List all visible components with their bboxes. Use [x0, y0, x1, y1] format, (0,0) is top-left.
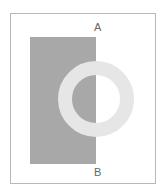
- label-a: A: [94, 22, 101, 33]
- label-b: B: [94, 167, 101, 178]
- koffka-ring-figure: [0, 0, 166, 194]
